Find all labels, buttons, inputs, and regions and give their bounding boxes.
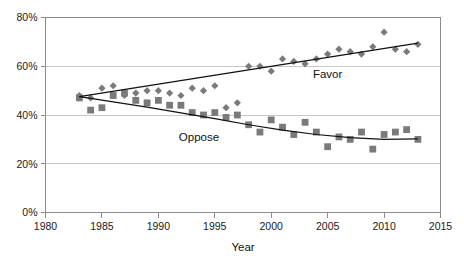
data-point-favor-1995 <box>211 82 218 89</box>
y-tick-label-20: 20% <box>16 158 37 170</box>
series-oppose <box>76 90 421 153</box>
data-point-favor-1988 <box>132 89 139 96</box>
data-point-favor-2001 <box>279 55 286 62</box>
x-tick-label-1985: 1985 <box>90 220 114 232</box>
data-point-oppose-2000 <box>268 116 275 123</box>
data-point-favor-1989 <box>143 87 150 94</box>
data-point-oppose-1983 <box>76 95 83 102</box>
data-point-oppose-1984 <box>87 107 94 114</box>
trendlines-group <box>79 43 418 139</box>
data-point-oppose-1995 <box>211 109 218 116</box>
x-tick-label-1980: 1980 <box>34 220 58 232</box>
x-tick-label-2015: 2015 <box>429 220 453 232</box>
data-point-oppose-2012 <box>403 126 410 133</box>
y-tick-label-60: 60% <box>16 60 37 72</box>
x-tick-label-2010: 2010 <box>372 220 396 232</box>
data-point-oppose-1997 <box>234 112 241 119</box>
data-point-favor-2002 <box>290 58 297 65</box>
y-tick-label-80: 80% <box>16 11 37 23</box>
data-point-favor-2010 <box>380 29 387 36</box>
data-point-oppose-1988 <box>132 97 139 104</box>
data-point-oppose-2005 <box>324 143 331 150</box>
data-point-favor-2012 <box>403 48 410 55</box>
y-tick-label-0: 0% <box>22 206 37 218</box>
data-point-favor-1992 <box>177 92 184 99</box>
x-tick-label-1995: 1995 <box>203 220 227 232</box>
trendline-oppose-trend <box>79 97 418 140</box>
trendline-favor-trend <box>79 43 418 97</box>
data-point-favor-1991 <box>166 89 173 96</box>
data-point-oppose-2003 <box>302 119 309 126</box>
data-point-oppose-1999 <box>257 129 264 136</box>
scatter-chart: 198019851990199520002005201020150%20%40%… <box>0 0 464 258</box>
data-point-oppose-2009 <box>369 146 376 153</box>
data-point-favor-2000 <box>268 68 275 75</box>
x-tick-label-2005: 2005 <box>316 220 340 232</box>
data-series-group <box>76 29 422 153</box>
x-tick-label-2000: 2000 <box>260 220 284 232</box>
data-point-oppose-1985 <box>99 104 106 111</box>
data-point-oppose-2008 <box>358 129 365 136</box>
y-tick-label-40: 40% <box>16 109 37 121</box>
data-point-oppose-2010 <box>381 131 388 138</box>
annotation-favor: Favor <box>313 68 343 80</box>
x-axis-title: Year <box>231 241 254 253</box>
data-point-favor-1985 <box>98 85 105 92</box>
data-point-favor-1996 <box>222 104 229 111</box>
data-point-favor-1994 <box>200 87 207 94</box>
chart-container: 198019851990199520002005201020150%20%40%… <box>0 0 464 258</box>
data-point-favor-1990 <box>155 87 162 94</box>
axis-labels-group: 198019851990199520002005201020150%20%40%… <box>16 11 452 231</box>
data-point-oppose-1987 <box>121 90 128 97</box>
data-point-oppose-1991 <box>166 102 173 109</box>
data-point-oppose-1992 <box>178 102 185 109</box>
data-point-oppose-1986 <box>110 92 117 99</box>
x-tick-label-1990: 1990 <box>147 220 171 232</box>
data-point-oppose-1990 <box>155 97 162 104</box>
data-point-favor-2006 <box>335 46 342 53</box>
data-point-favor-1998 <box>245 63 252 70</box>
data-point-oppose-2011 <box>392 129 399 136</box>
data-point-favor-1986 <box>110 82 117 89</box>
data-point-favor-2013 <box>414 41 421 48</box>
data-point-favor-1993 <box>189 85 196 92</box>
annotation-oppose: Oppose <box>179 131 219 143</box>
data-point-favor-1997 <box>234 99 241 106</box>
gridlines-group <box>46 18 441 164</box>
data-point-oppose-1989 <box>144 99 151 106</box>
